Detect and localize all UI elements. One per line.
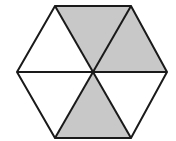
hexagon-diagram <box>0 0 176 141</box>
